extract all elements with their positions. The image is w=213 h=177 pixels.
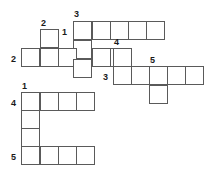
crossword-cell[interactable]	[167, 66, 186, 85]
clue-number: 5	[11, 153, 16, 162]
crossword-cell[interactable]	[21, 110, 40, 129]
clue-number: 3	[74, 10, 79, 19]
crossword-cell[interactable]	[58, 92, 77, 111]
crossword-cell[interactable]	[131, 66, 150, 85]
crossword-cell[interactable]	[92, 21, 111, 40]
crossword-cell[interactable]	[21, 48, 40, 67]
crossword-cell[interactable]	[110, 21, 129, 40]
crossword-cell[interactable]	[73, 21, 92, 40]
clue-number: 4	[114, 38, 119, 47]
crossword-cell[interactable]	[40, 48, 59, 67]
crossword-cell[interactable]	[113, 48, 132, 67]
clue-number: 3	[103, 73, 108, 82]
crossword-cell[interactable]	[113, 66, 132, 85]
crossword-cell[interactable]	[58, 146, 77, 165]
clue-number: 4	[11, 99, 16, 108]
clue-number: 5	[150, 56, 155, 65]
clue-number: 1	[22, 82, 27, 91]
crossword-cell[interactable]	[21, 146, 40, 165]
crossword-cell[interactable]	[128, 21, 147, 40]
crossword-puzzle: 3214253145	[0, 0, 213, 177]
crossword-cell[interactable]	[21, 128, 40, 147]
crossword-cell[interactable]	[185, 66, 204, 85]
crossword-cell[interactable]	[76, 92, 95, 111]
crossword-cell[interactable]	[146, 21, 165, 40]
crossword-cell[interactable]	[21, 92, 40, 111]
crossword-cell[interactable]	[92, 48, 111, 67]
crossword-cell[interactable]	[76, 146, 95, 165]
crossword-cell[interactable]	[40, 92, 59, 111]
crossword-cell[interactable]	[149, 85, 168, 104]
crossword-cell[interactable]	[73, 59, 92, 78]
crossword-cell[interactable]	[40, 146, 59, 165]
crossword-cell[interactable]	[149, 66, 168, 85]
clue-number: 2	[41, 19, 46, 28]
crossword-cell[interactable]	[40, 29, 59, 48]
clue-number: 1	[62, 28, 67, 37]
clue-number: 2	[11, 55, 16, 64]
